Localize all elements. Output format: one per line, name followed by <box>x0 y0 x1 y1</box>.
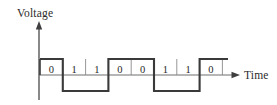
bit-label: 1 <box>177 64 200 75</box>
bit-label: 0 <box>131 64 154 75</box>
bit-label: 0 <box>40 64 63 75</box>
bit-label: 1 <box>63 64 86 75</box>
bit-label: 1 <box>86 64 109 75</box>
bit-label: 0 <box>200 64 223 75</box>
bit-label: 1 <box>154 64 177 75</box>
y-axis <box>36 21 42 100</box>
y-axis-arrowhead <box>36 21 42 30</box>
bit-label: 0 <box>108 64 131 75</box>
waveform-figure: Voltage Time 0 1 1 0 0 <box>0 0 277 105</box>
x-axis-arrowhead <box>232 72 241 78</box>
waveform-plot <box>0 0 277 105</box>
